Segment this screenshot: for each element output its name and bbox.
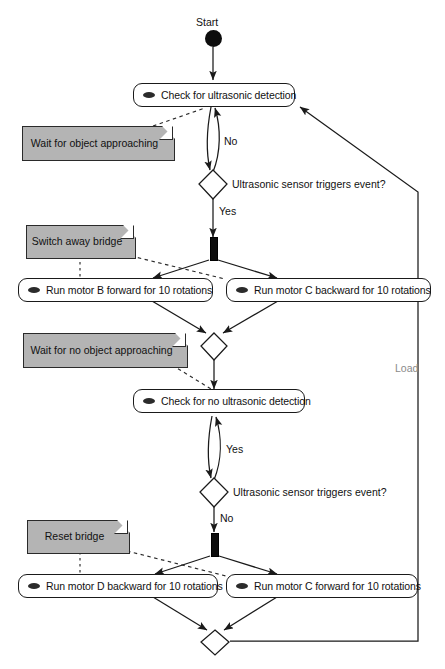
note-reset-bridge: Reset bridge [27,520,128,552]
activity-label: Run motor C forward for 10 rotations [254,580,421,592]
edge-label-yes-2: Yes [226,443,243,455]
activity-check-no-ultrasonic[interactable]: Check for no ultrasonic detection [133,389,305,413]
note-switch-away-bridge: Switch away bridge [26,225,134,257]
note-wait-no-object-approaching: Wait for no object approaching [23,333,186,366]
merge-diamond-2 [201,630,229,655]
note-wait-object-approaching: Wait for object approaching [22,126,173,159]
ellipse-icon [236,287,248,293]
note-label: Wait for no object approaching [23,333,186,366]
activity-run-motor-c-forward[interactable]: Run motor C forward for 10 rotations [226,574,418,598]
decision-1-label: Ultrasonic sensor triggers event? [232,178,386,190]
edge-label-yes-1: Yes [219,205,236,217]
activity-run-motor-b-forward[interactable]: Run motor B forward for 10 rotations [18,278,213,302]
activity-run-motor-d-backward[interactable]: Run motor D backward for 10 rotations [18,574,218,598]
fork-bar-2 [211,533,219,557]
ellipse-icon [143,92,155,98]
edge-label-no-1: No [224,135,237,147]
edge-fork1-to-motor-c [218,260,277,278]
ellipse-icon [143,398,155,404]
activity-label: Check for ultrasonic detection [161,89,296,101]
edge-motor-b-to-merge1 [152,301,206,333]
edge-motor-c-fwd-to-merge2 [224,597,277,630]
note-link-wait-no-object [172,365,211,389]
decision-2-label: Ultrasonic sensor triggers event? [233,486,387,498]
edge-decision2-yes-loopback [214,417,220,480]
edge-label-load: Load [395,362,418,374]
activity-diagram-canvas: Start Check for ultrasonic detection Wai… [0,0,445,669]
activity-label: Run motor C backward for 10 rotations [254,284,431,296]
merge-diamond-1 [201,333,227,360]
edge-motor-d-to-merge2 [153,597,207,630]
edge-decision1-no-loopback [213,108,219,172]
note-label: Reset bridge [27,520,128,552]
edge-check-to-decision1 [207,107,211,170]
activity-run-motor-c-backward[interactable]: Run motor C backward for 10 rotations [226,278,431,302]
decision-diamond-1 [199,170,227,199]
edge-check-no-to-decision2 [208,416,212,478]
activity-label: Run motor B forward for 10 rotations [46,284,212,296]
ellipse-icon [28,287,40,293]
start-caption: Start [196,16,218,28]
ellipse-icon [236,583,248,589]
decision-diamond-2 [200,478,228,507]
activity-label: Check for no ultrasonic detection [161,395,311,407]
activity-label: Run motor D backward for 10 rotations [46,580,223,592]
note-label: Switch away bridge [26,225,134,257]
fork-bar-1 [210,237,218,261]
edge-fork1-to-motor-b [153,260,209,278]
start-node [205,30,222,47]
activity-check-ultrasonic[interactable]: Check for ultrasonic detection [133,83,295,107]
note-label: Wait for object approaching [22,126,173,159]
ellipse-icon [28,583,40,589]
note-link-wait-object [153,108,205,126]
edge-label-no-2: No [220,512,233,524]
edge-motor-c-to-merge1 [223,301,278,333]
edge-fork2-to-motor-c-fwd [219,556,277,574]
